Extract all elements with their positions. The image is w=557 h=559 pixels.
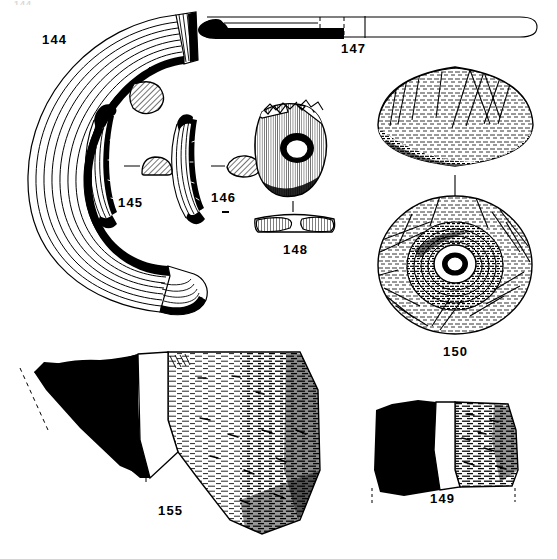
figure-148-artwork xyxy=(255,100,335,232)
figure-146-dash xyxy=(222,211,229,213)
figure-label-145: 145 xyxy=(118,196,143,209)
figure-label-146: 146 xyxy=(211,191,236,204)
figure-150-side-artwork xyxy=(378,67,534,170)
plate-artwork xyxy=(0,0,557,559)
figure-label-144: 144 xyxy=(42,33,67,46)
running-head: 144 xyxy=(14,0,32,5)
figure-149-artwork xyxy=(372,400,518,504)
figure-label-148: 148 xyxy=(283,243,308,256)
illustration-plate: 144 xyxy=(0,0,557,559)
figure-147-artwork xyxy=(198,16,537,39)
figure-label-155: 155 xyxy=(158,504,183,517)
plate-caption xyxy=(55,553,475,559)
figure-label-147: 147 xyxy=(341,42,366,55)
figure-144-artwork xyxy=(28,12,207,315)
figure-label-149: 149 xyxy=(430,492,455,505)
figure-label-150: 150 xyxy=(443,345,468,358)
figure-150-top-artwork xyxy=(376,174,532,334)
figure-146-artwork xyxy=(172,114,260,224)
